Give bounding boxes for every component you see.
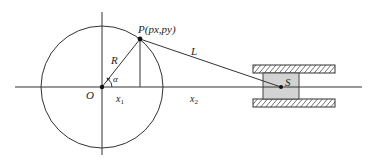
point-p-label: P(px,py): [137, 23, 176, 36]
radius-label: R: [110, 54, 118, 66]
connecting-rod: [140, 39, 281, 87]
crank-pin-point: [138, 37, 143, 42]
origin-point: [100, 85, 104, 89]
x2-label: x2: [189, 93, 198, 106]
slider-crank-diagram: P(px,py) O R α L S x1 x2: [0, 0, 372, 166]
origin-label: O: [86, 89, 94, 101]
x1-label: x1: [115, 93, 124, 106]
rod-length-label: L: [190, 45, 197, 57]
slider-label: S: [285, 76, 291, 88]
angle-label: α: [113, 74, 118, 84]
angle-arc: [108, 79, 112, 87]
slider-pin-point: [279, 85, 283, 89]
lower-guide-rail: [253, 99, 335, 107]
upper-guide-rail: [253, 65, 335, 73]
